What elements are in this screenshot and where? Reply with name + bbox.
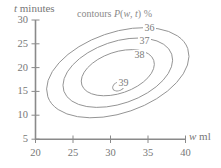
- x-tick-label: 40: [176, 148, 196, 159]
- contour-label-36: 36: [143, 23, 156, 33]
- plot-canvas: [0, 0, 221, 168]
- contour-line-37: [54, 25, 182, 121]
- x-axis-title: w ml: [189, 131, 211, 142]
- y-tick-label: 20: [8, 63, 28, 74]
- axes-group: [32, 20, 187, 143]
- x-tick-label: 20: [26, 148, 46, 159]
- y-tick-label: 5: [8, 134, 28, 145]
- y-tick-label: 10: [8, 110, 28, 121]
- contour-plot-figure: t minutes w ml contours P(w, t) % 30 25 …: [0, 0, 221, 168]
- y-tick-label: 15: [8, 86, 28, 97]
- y-tick-label: 30: [8, 15, 28, 26]
- contour-line-38: [75, 41, 160, 105]
- contour-label-38: 38: [133, 50, 146, 60]
- x-tick-label: 35: [138, 148, 158, 159]
- chart-title: contours P(w, t) %: [77, 9, 152, 19]
- contour-line-36: [35, 11, 201, 135]
- contour-label-37: 37: [138, 36, 151, 46]
- x-tick-label: 25: [63, 148, 83, 159]
- y-axis-title: t minutes: [14, 3, 55, 14]
- chart-title-suffix: %: [141, 8, 152, 19]
- x-axis-title-unit: ml: [196, 130, 210, 142]
- contour-lines-group: [35, 11, 201, 135]
- contour-label-39: 39: [117, 78, 130, 88]
- y-tick-label: 25: [8, 39, 28, 50]
- x-tick-label: 30: [101, 148, 121, 159]
- chart-title-prefix: contours: [77, 8, 114, 19]
- y-axis-title-unit: minutes: [17, 2, 55, 14]
